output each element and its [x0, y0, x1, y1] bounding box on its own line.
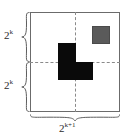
label-upper-exponent: k: [10, 28, 14, 36]
l-tromino-path: [58, 43, 93, 80]
tromino-tiling-figure: 2k 2k 2k+1: [0, 0, 132, 136]
label-bottom-exponent: k+1: [65, 121, 76, 129]
label-lower-half-size: 2k: [4, 80, 13, 91]
brace-lower-half: [21, 62, 30, 112]
label-lower-exponent: k: [10, 78, 14, 86]
l-tromino-shape: [58, 43, 93, 80]
brace-upper-half: [21, 12, 30, 62]
label-upper-half-size: 2k: [4, 30, 13, 41]
removed-square: [92, 26, 110, 44]
label-board-side-size: 2k+1: [59, 123, 75, 134]
